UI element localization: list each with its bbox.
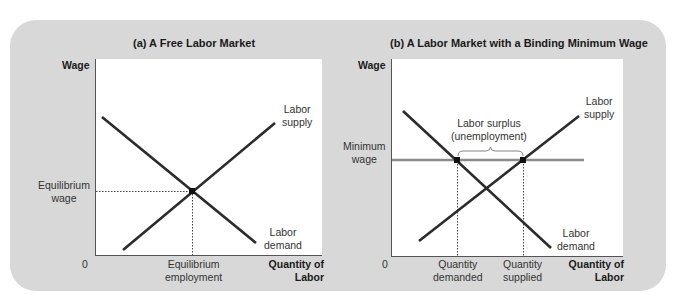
panel-a-equilibrium-guides <box>96 191 193 255</box>
panel-b-demand-curve <box>403 111 551 248</box>
panel-b-supply-curve <box>419 116 579 241</box>
panel-b-surplus-bracket <box>458 147 523 156</box>
panel-a-equilibrium-point <box>189 188 195 194</box>
diagram-graphics <box>0 0 677 302</box>
panel-b-quantity-demanded-point <box>454 157 460 163</box>
panel-b-axes <box>391 59 623 257</box>
panel-b-quantity-supplied-point <box>520 157 526 163</box>
panel-a-demand-curve <box>102 117 256 243</box>
panel-a-supply-curve <box>123 123 275 250</box>
panel-b-quantity-guides <box>458 161 524 256</box>
panel-a-axes <box>95 59 322 256</box>
